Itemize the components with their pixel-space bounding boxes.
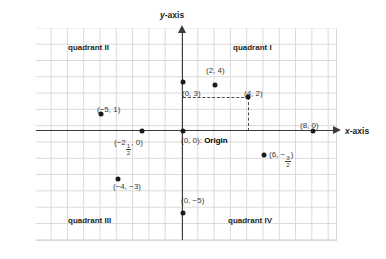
label-origin-coords: (0, 0): <box>181 136 202 145</box>
x-axis-label-rest: -axis <box>350 126 369 136</box>
x-axis-arrow-icon <box>333 126 341 134</box>
label-0-3: (0, 3) <box>182 89 201 98</box>
label-origin-name: Origin <box>204 136 228 145</box>
label-minus5-1: (−5, 1) <box>97 105 120 114</box>
label-minus2half-post: , 0) <box>131 138 143 147</box>
point-0-3 <box>181 80 186 85</box>
label-4-2: (4, 2) <box>244 89 263 98</box>
coordinate-plane-figure: y-axis x-axis quadrant I quadrant II qua… <box>0 0 386 259</box>
label-origin: (0, 0): Origin <box>181 136 228 145</box>
label-minus4-minus3: (−4, −3) <box>113 182 141 191</box>
point-minus2half-0 <box>140 129 145 134</box>
label-0-minus5: (0, −5) <box>181 196 204 205</box>
point-6-minus3half <box>262 153 267 158</box>
quadrant-label-iii: quadrant III <box>68 216 111 225</box>
quadrant-label-ii: quadrant II <box>68 43 109 52</box>
y-axis-label-rest: -axis <box>165 10 184 20</box>
y-axis-arrow-icon <box>178 25 186 33</box>
point-minus4-minus3 <box>116 177 121 182</box>
label-minus2half-pre: (−2 <box>114 138 126 147</box>
label-2-4: (2, 4) <box>206 66 225 75</box>
label-6-minus3half-post: ) <box>291 150 294 159</box>
y-axis-label: y-axis <box>160 10 184 20</box>
point-2-4 <box>213 83 218 88</box>
point-origin <box>181 129 186 134</box>
label-6-minus3half: (6, −32) <box>269 150 293 168</box>
fraction-denominator: 2 <box>285 161 290 168</box>
label-8-0: (8, 0) <box>300 121 319 130</box>
fraction-denominator: 2 <box>126 149 131 156</box>
x-axis-label: x-axis <box>345 126 369 136</box>
quadrant-label-i: quadrant I <box>233 43 272 52</box>
quadrant-label-iv: quadrant IV <box>228 216 272 225</box>
dashed-guide-vertical <box>248 97 249 131</box>
label-6-minus3half-pre: (6, − <box>269 150 285 159</box>
point-0-minus5 <box>181 211 186 216</box>
grid-background <box>36 28 337 241</box>
label-minus2half-0: (−212, 0) <box>114 138 143 156</box>
